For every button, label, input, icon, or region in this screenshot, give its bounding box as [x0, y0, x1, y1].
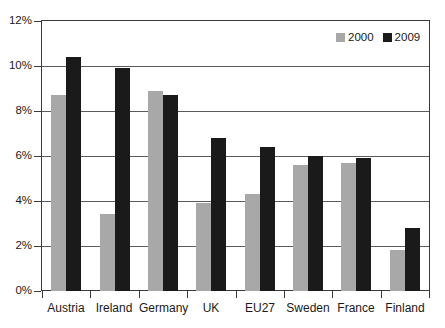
- x-tick-label-sweden: Sweden: [284, 301, 332, 315]
- x-tick-label-eu27: EU27: [236, 301, 284, 315]
- y-tick-mark: [34, 246, 41, 247]
- legend-swatch-icon-2009: [383, 33, 392, 42]
- y-tick-mark: [34, 291, 41, 292]
- legend-entry-2000: 2000: [336, 31, 374, 43]
- x-tick-mark: [284, 291, 285, 298]
- y-tick-label: 12%: [0, 15, 32, 27]
- x-tick-mark: [236, 291, 237, 298]
- bar-eu27-2009: [260, 147, 275, 291]
- bar-chart: 0%2%4%6%8%10%12% AustriaIrelandGermanyUK…: [0, 0, 445, 328]
- bar-uk-2009: [211, 138, 226, 291]
- chart-legend: 20002009: [336, 31, 420, 43]
- y-tick-label: 8%: [0, 105, 32, 117]
- x-tick-mark: [429, 291, 430, 298]
- bar-germany-2000: [148, 91, 163, 291]
- x-tick-label-france: France: [332, 301, 380, 315]
- y-tick-label: 0%: [0, 285, 32, 297]
- y-tick-mark: [34, 66, 41, 67]
- bar-sweden-2009: [308, 156, 323, 291]
- bar-finland-2000: [390, 250, 405, 291]
- bar-austria-2000: [51, 95, 66, 291]
- bar-ireland-2000: [100, 214, 115, 291]
- legend-entry-2009: 2009: [383, 31, 421, 43]
- x-tick-label-austria: Austria: [42, 301, 90, 315]
- bar-finland-2009: [405, 228, 420, 291]
- legend-label-2000: 2000: [348, 31, 374, 43]
- y-tick-mark: [34, 156, 41, 157]
- x-tick-label-ireland: Ireland: [90, 301, 138, 315]
- x-tick-label-finland: Finland: [381, 301, 429, 315]
- x-tick-label-uk: UK: [187, 301, 235, 315]
- x-tick-label-germany: Germany: [139, 301, 187, 315]
- bar-sweden-2000: [293, 165, 308, 291]
- bar-eu27-2000: [245, 194, 260, 291]
- bar-france-2009: [356, 158, 371, 291]
- y-tick-label: 2%: [0, 240, 32, 252]
- x-tick-mark: [90, 291, 91, 298]
- x-tick-mark: [381, 291, 382, 298]
- y-tick-mark: [34, 111, 41, 112]
- bar-ireland-2009: [115, 68, 130, 291]
- y-tick-label: 10%: [0, 60, 32, 72]
- y-tick-label: 6%: [0, 150, 32, 162]
- x-tick-mark: [42, 291, 43, 298]
- legend-label-2009: 2009: [395, 31, 421, 43]
- x-tick-mark: [332, 291, 333, 298]
- y-tick-mark: [34, 21, 41, 22]
- y-tick-mark: [34, 201, 41, 202]
- bar-austria-2009: [66, 57, 81, 291]
- x-tick-mark: [187, 291, 188, 298]
- bars-layer: [42, 21, 429, 291]
- x-tick-mark: [139, 291, 140, 298]
- legend-swatch-icon-2000: [336, 33, 345, 42]
- bar-germany-2009: [163, 95, 178, 291]
- bar-france-2000: [341, 163, 356, 291]
- y-tick-label: 4%: [0, 195, 32, 207]
- bar-uk-2000: [196, 203, 211, 291]
